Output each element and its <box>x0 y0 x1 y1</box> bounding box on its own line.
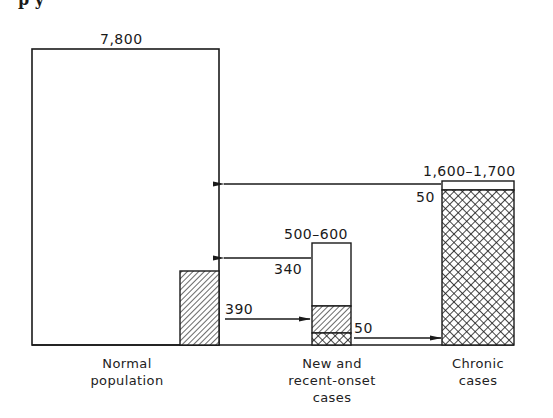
flow-label-chronic-to-normal: 50 <box>416 189 435 205</box>
flow-label-new-to-chronic: 50 <box>354 320 373 336</box>
category-label-new-recent: New and recent-onset cases <box>270 355 394 406</box>
total-label-new-recent: 500–600 <box>284 226 348 242</box>
category-line: cases <box>270 389 394 406</box>
category-line: cases <box>420 372 536 389</box>
flow-label-new-to-normal: 340 <box>274 261 302 277</box>
category-label-chronic: Chronic cases <box>420 355 536 389</box>
bar-new-recent-crosshatched-segment <box>312 333 351 345</box>
flow-label-normal-to-new: 390 <box>225 301 253 317</box>
total-label-chronic: 1,600–1,700 <box>423 163 516 179</box>
category-line: recent-onset <box>270 372 394 389</box>
bar-new-recent-empty-segment <box>312 243 351 306</box>
category-line: Chronic <box>420 355 536 372</box>
category-line: population <box>72 372 182 389</box>
bar-normal-hatched-segment <box>180 271 219 345</box>
total-label-normal: 7,800 <box>100 31 143 47</box>
category-line: New and <box>270 355 394 372</box>
bar-chronic-crosshatched-segment <box>442 190 514 345</box>
bar-chronic-empty-segment <box>442 181 514 190</box>
bar-new-recent-hatched-segment <box>312 306 351 333</box>
category-line: Normal <box>72 355 182 372</box>
category-label-normal: Normal population <box>72 355 182 389</box>
